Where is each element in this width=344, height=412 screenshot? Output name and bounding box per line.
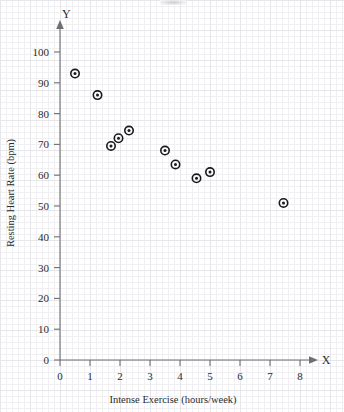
y-tick-label: 0	[44, 354, 50, 366]
data-point-center	[174, 163, 177, 166]
data-point-center	[96, 94, 99, 97]
x-tick-label: 2	[117, 370, 123, 382]
data-point	[171, 160, 179, 168]
data-point-center	[117, 137, 120, 140]
y-tick-label: 20	[38, 292, 50, 304]
x-axis-letter: X	[322, 353, 331, 367]
data-point-center	[164, 149, 167, 152]
y-axis-title: Resting Heart Rate (bpm)	[5, 138, 17, 247]
data-point-center	[195, 177, 198, 180]
data-point	[192, 174, 200, 182]
y-tick-label: 90	[38, 77, 50, 89]
data-point-center	[209, 171, 212, 174]
data-point-center	[110, 144, 113, 147]
data-point	[161, 146, 169, 154]
x-tick-label: 7	[267, 370, 273, 382]
y-tick-label: 80	[38, 108, 50, 120]
data-point	[71, 69, 79, 77]
x-tick-group: 012345678	[57, 360, 303, 382]
x-tick-label: 5	[207, 370, 213, 382]
y-tick-label: 100	[33, 46, 50, 58]
data-point	[279, 199, 287, 207]
scatter-chart: 0102030405060708090100 012345678 Y X Int…	[0, 0, 344, 412]
data-point-center	[128, 129, 131, 132]
data-points-group	[71, 69, 288, 207]
x-tick-label: 0	[57, 370, 63, 382]
data-point	[125, 126, 133, 134]
y-tick-label: 50	[38, 200, 50, 212]
x-tick-label: 3	[147, 370, 153, 382]
y-axis-letter: Y	[62, 7, 71, 21]
plot-area: 0102030405060708090100 012345678 Y X Int…	[0, 0, 344, 412]
x-tick-label: 8	[297, 370, 303, 382]
x-tick-label: 6	[237, 370, 243, 382]
x-tick-label: 4	[177, 370, 183, 382]
y-tick-label: 70	[38, 138, 50, 150]
y-tick-group: 0102030405060708090100	[33, 46, 61, 366]
data-point	[107, 142, 115, 150]
data-point	[206, 168, 214, 176]
x-tick-label: 1	[87, 370, 93, 382]
y-tick-label: 10	[38, 323, 50, 335]
y-axis-arrowhead	[56, 20, 64, 29]
data-point	[114, 134, 122, 142]
axes-group	[56, 20, 318, 364]
y-tick-label: 60	[38, 169, 50, 181]
x-axis-title: Intense Exercise (hours/week)	[109, 394, 237, 406]
data-point	[93, 91, 101, 99]
data-point-center	[74, 72, 77, 75]
data-point-center	[282, 201, 285, 204]
y-tick-label: 30	[38, 262, 50, 274]
x-axis-arrowhead	[309, 356, 318, 364]
y-tick-label: 40	[38, 231, 50, 243]
